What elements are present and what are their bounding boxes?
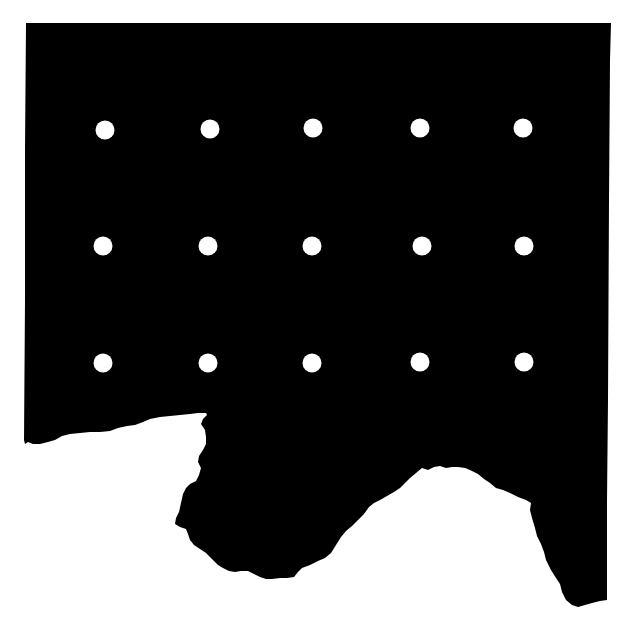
- white-dot: [94, 354, 113, 373]
- white-dot: [514, 119, 533, 138]
- silhouette-figure: [0, 0, 631, 626]
- white-dot: [411, 353, 430, 372]
- white-dot: [515, 353, 534, 372]
- white-dot: [413, 237, 432, 256]
- white-dot: [303, 237, 322, 256]
- white-dot: [515, 237, 534, 256]
- white-dot: [411, 119, 430, 138]
- white-dot: [201, 120, 220, 139]
- white-dot: [199, 237, 218, 256]
- white-dot: [199, 354, 218, 373]
- white-dot: [304, 119, 323, 138]
- white-dot: [303, 354, 322, 373]
- white-dot: [96, 121, 115, 140]
- white-dot: [94, 237, 113, 256]
